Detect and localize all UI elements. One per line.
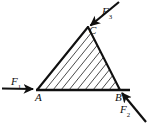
triangle-side-AC — [37, 27, 88, 90]
force-label-F2-subscript: 2 — [127, 111, 130, 118]
force-label-F2-letter: F — [120, 103, 127, 115]
force-label-F2: F2 — [120, 104, 130, 118]
force-label-F3-letter: F — [102, 5, 109, 17]
vertex-label-C: C — [89, 25, 96, 36]
force-label-F3-subscript: 3 — [109, 13, 112, 20]
vertex-label-A: A — [35, 92, 42, 103]
force-label-F3: F3 — [102, 6, 112, 20]
force-label-F1-subscript: 1 — [18, 83, 21, 90]
force-label-F1: F1 — [11, 76, 21, 90]
vertex-label-B: B — [115, 92, 122, 103]
force-diagram-figure: F1 F3 F2 A B C — [0, 0, 149, 124]
force-label-F1-letter: F — [11, 75, 18, 87]
